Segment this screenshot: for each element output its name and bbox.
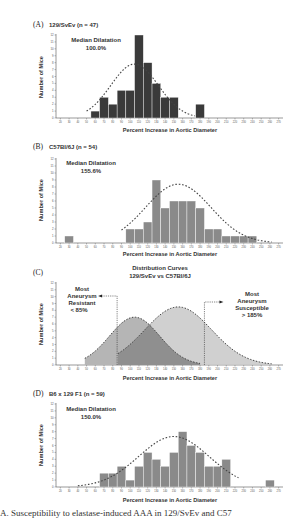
x-tick-label: 60 [94,120,97,124]
x-tick-label: 110 [137,120,142,124]
x-tick-label: 260 [268,489,273,493]
y-tick-label: 7 [52,437,54,441]
y-tick-label: 1 [52,234,54,238]
x-tick-label: 100 [128,120,133,124]
y-tick-label: 6 [52,199,54,203]
x-tick-label: 100 [128,489,133,493]
x-tick-label: 190 [207,120,212,124]
x-tick-label: 220 [233,489,238,493]
x-tick-label: 30 [68,489,71,493]
y-tick-label: 3 [52,464,54,468]
y-tick-label: 10 [50,295,54,299]
panel-d-median-value: 150.0% [81,414,102,420]
x-tick-label: 40 [76,245,79,249]
x-tick-label: 90 [120,367,123,371]
histogram-bar [91,111,100,118]
y-tick-label: 11 [51,409,54,413]
histogram-bar [100,473,109,487]
x-tick-label: 80 [111,245,114,249]
y-tick-label: 12 [50,157,54,161]
histogram-bar [126,90,135,118]
x-tick-label: 160 [180,489,185,493]
histogram-bar [178,201,187,243]
x-tick-label: 220 [233,245,238,249]
x-tick-label: 190 [207,367,212,371]
histogram-bar [213,466,222,487]
x-tick-label: 80 [111,367,114,371]
histogram-bar [152,459,161,487]
y-tick-label: 1 [52,478,54,482]
y-tick-label: 3 [52,343,54,347]
x-tick-label: 220 [233,120,238,124]
y-tick-label: 0 [52,241,54,245]
x-tick-label: 210 [224,367,229,371]
x-tick-label: 270 [276,367,281,371]
x-tick-label: 70 [103,367,106,371]
x-tick-label: 20 [59,245,62,249]
y-tick-label: 7 [52,192,54,196]
y-tick-label: 10 [50,47,54,51]
y-tick-label: 6 [52,322,54,326]
histogram-bar [196,208,205,243]
right-arrow-icon [219,300,223,303]
y-tick-label: 5 [52,329,54,333]
panel-c: (C) Distribution Curves 129/SvEv vs C57B… [33,265,283,381]
histogram-bar [100,97,109,118]
y-tick-label: 11 [51,40,54,44]
x-tick-label: 40 [76,367,79,371]
panel-a-xlabel: Percent Increase in Aortic Diameter [123,127,218,133]
x-tick-label: 130 [154,245,159,249]
histogram-bar [143,452,152,487]
x-tick-label: 60 [94,367,97,371]
x-tick-label: 210 [224,120,229,124]
x-tick-label: 230 [242,489,247,493]
right-note-line4: > 185% [242,312,263,318]
x-tick-label: 170 [189,245,194,249]
panel-c-ylabel: Number of Mice [38,303,44,345]
histogram-bar [108,473,117,487]
x-tick-label: 180 [198,489,203,493]
x-tick-label: 150 [172,489,177,493]
histogram-bar [65,236,74,243]
panel-a-median-label: Median Dilatation [71,37,121,43]
histogram-bar [231,236,240,243]
x-tick-label: 240 [250,367,255,371]
x-tick-label: 130 [154,120,159,124]
x-tick-label: 70 [103,245,106,249]
histogram-bar [135,229,144,243]
histogram-bar [239,236,248,243]
histogram-bar [170,201,179,243]
x-tick-label: 120 [146,367,151,371]
panel-c-title-line2: 129/SvEv vs C57Bl/6J [129,273,191,279]
x-tick-label: 20 [59,120,62,124]
figure-canvas: (A) 129/SvEv (n = 47) Median Dilatation … [0,0,305,518]
panel-b-median-label: Median Dilatation [66,160,116,166]
histogram-bar [196,452,205,487]
panel-c-title-line1: Distribution Curves [132,265,188,271]
y-tick-label: 5 [52,450,54,454]
histogram-bar [187,201,196,243]
y-tick-label: 9 [52,54,54,58]
x-tick-label: 90 [120,245,123,249]
x-tick-label: 30 [68,367,71,371]
histogram-bar [126,480,135,487]
panel-d-ylabel: Number of Mice [38,424,44,466]
x-tick-label: 200 [215,489,220,493]
histogram-bar [178,432,187,487]
histogram-bar [161,208,170,243]
panel-d-xlabel: Percent Increase in Aortic Diameter [123,497,218,503]
panel-b: (B) C57Bl/6J (n = 54) Median Dilatation … [33,142,283,257]
y-tick-label: 3 [52,95,54,99]
x-tick-label: 230 [242,367,247,371]
histogram-bar [126,229,135,243]
histogram-bar [213,229,222,243]
x-tick-label: 180 [198,120,203,124]
x-tick-label: 250 [259,120,264,124]
x-tick-label: 240 [250,489,255,493]
x-tick-label: 200 [215,367,220,371]
x-tick-label: 260 [268,367,273,371]
y-tick-label: 4 [52,336,54,340]
x-tick-label: 50 [85,120,88,124]
y-tick-label: 0 [52,363,54,367]
histogram-bar [135,466,144,487]
